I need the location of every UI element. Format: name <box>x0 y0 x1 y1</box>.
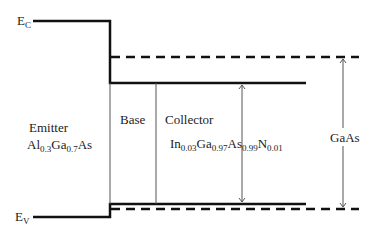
ec-label-sub: C <box>25 20 31 30</box>
emitter-label: Emitter <box>29 121 68 134</box>
collector-material-as: As <box>228 136 242 151</box>
gaas-label: GaAs <box>330 131 360 144</box>
emitter-material-label: Al0.3Ga0.7As <box>27 138 92 151</box>
collector-material-ga: Ga <box>197 136 212 151</box>
conduction-band-emitter <box>33 21 306 83</box>
ev-label: EV <box>15 210 29 223</box>
collector-material-ga-sub: 0.97 <box>212 143 228 153</box>
ec-label: EC <box>17 14 31 27</box>
collector-material-label: In0.03Ga0.97As0.99N0.01 <box>170 137 283 150</box>
collector-material-in: In <box>170 136 181 151</box>
ev-label-main: E <box>15 209 23 224</box>
emitter-material-ga: Ga <box>51 137 66 152</box>
base-label: Base <box>120 113 145 126</box>
collector-material-as-sub: 0.99 <box>242 143 258 153</box>
collector-material-n-sub: 0.01 <box>267 143 283 153</box>
band-diagram: EC EV Emitter Al0.3Ga0.7As Base Collecto… <box>0 0 377 231</box>
ec-label-main: E <box>17 13 25 28</box>
emitter-material-al: Al <box>27 137 40 152</box>
emitter-material-al-sub: 0.3 <box>40 144 51 154</box>
collector-material-n: N <box>258 136 267 151</box>
valence-band-emitter <box>33 204 306 217</box>
collector-material-in-sub: 0.03 <box>181 143 197 153</box>
emitter-material-as: As <box>78 137 92 152</box>
ev-label-sub: V <box>23 216 30 226</box>
emitter-material-ga-sub: 0.7 <box>66 144 77 154</box>
collector-label: Collector <box>165 113 213 126</box>
